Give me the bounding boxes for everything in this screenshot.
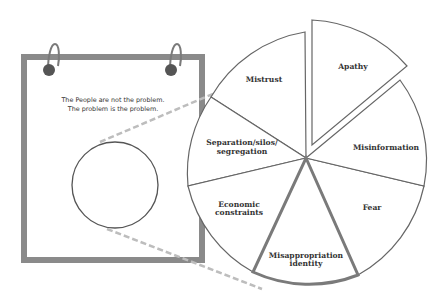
label-misinformation: Misinformation — [353, 143, 420, 152]
problem-diagram: The People are not the problem. The prob… — [0, 0, 448, 306]
notepad: The People are not the problem. The prob… — [24, 44, 202, 260]
label-mistrust: Mistrust — [246, 75, 283, 84]
label-apathy: Apathy — [337, 62, 368, 71]
ring-hole-left-icon — [43, 64, 55, 76]
label-misappropriation-2: identity — [290, 259, 323, 268]
notepad-text-line2: The problem is the problem. — [67, 105, 159, 113]
label-fear: Fear — [363, 203, 383, 212]
notepad-text-line1: The People are not the problem. — [60, 96, 164, 104]
label-separation-2: segregation — [217, 147, 268, 156]
label-separation-1: Separation/silos/ — [206, 138, 278, 147]
notepad-frame — [24, 57, 202, 260]
ring-hole-right-icon — [165, 64, 177, 76]
label-economic-2: constraints — [215, 208, 263, 217]
